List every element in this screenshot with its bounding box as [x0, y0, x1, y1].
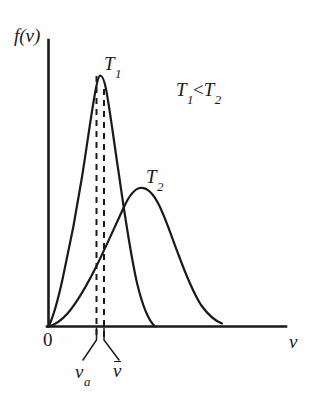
- inequality-annotation: T1<T2: [176, 80, 221, 104]
- curve-label-t2-subscript: 2: [157, 179, 163, 194]
- overline-accent: v: [113, 360, 121, 380]
- curve-label-t2: T2: [146, 167, 163, 191]
- curve-label-t1-subscript: 1: [115, 66, 121, 81]
- curve-t1: [49, 75, 156, 326]
- inequality-right-symbol: T: [204, 79, 215, 100]
- marker-label-va-subscript: a: [84, 374, 90, 389]
- curve-label-t1: T1: [104, 54, 121, 78]
- leader-line-va: [83, 328, 97, 360]
- marker-label-va: va: [75, 362, 90, 386]
- figure-container: f(v) v 0 T1 T2 T1<T2 va v: [0, 0, 314, 405]
- inequality-right-subscript: 2: [215, 92, 221, 107]
- x-axis-label: v: [289, 332, 297, 351]
- less-than-operator: <: [193, 79, 204, 100]
- origin-label: 0: [43, 330, 53, 349]
- marker-label-vbar: v: [113, 360, 121, 380]
- leader-line-vbar: [104, 328, 119, 360]
- inequality-left-subscript: 1: [187, 92, 193, 107]
- y-axis-label: f(v): [14, 26, 40, 45]
- curve-t2: [49, 188, 223, 327]
